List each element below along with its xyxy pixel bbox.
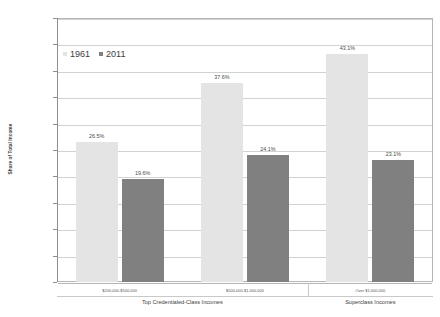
y-axis-tick-mark (53, 150, 57, 151)
legend-entry-2011: 2011 (99, 49, 125, 59)
y-axis-tick-mark (53, 282, 57, 283)
gridline (58, 125, 432, 126)
y-axis-tick-mark (53, 176, 57, 177)
bar-1961-2 (201, 83, 243, 282)
bar-value-label: 19.6% (112, 170, 174, 176)
x-axis-group-separator (308, 283, 309, 297)
x-axis-category-label: $200,000-$500,000 (50, 288, 190, 293)
bar-value-label: 43.1% (316, 45, 378, 51)
y-axis-tick-mark (53, 124, 57, 125)
bar-value-label: 23.1% (362, 151, 424, 157)
bar-2011-2 (247, 155, 289, 282)
bar-value-label: 37.6% (191, 74, 253, 80)
y-axis-title: Share of Total Income (8, 99, 14, 199)
bar-1961-3 (326, 54, 368, 282)
gridline (58, 72, 432, 73)
y-axis-tick-mark (53, 203, 57, 204)
bar-1961-1 (76, 142, 118, 282)
gridline (58, 283, 432, 284)
legend-swatch-1961 (63, 52, 67, 56)
x-axis-group-label: Top Credentialed-Class Incomes (92, 299, 272, 306)
y-axis-tick-mark (53, 71, 57, 72)
y-axis-tick-mark (53, 97, 57, 98)
y-axis-tick-mark (53, 44, 57, 45)
chart-legend: 1961 2011 (63, 49, 125, 59)
gridline (58, 19, 432, 20)
x-axis-category-label: $500,000-$1,000,000 (175, 288, 315, 293)
legend-entry-1961: 1961 (63, 49, 90, 59)
y-axis-tick-mark (53, 18, 57, 19)
gridline (58, 98, 432, 99)
y-axis-tick-mark (53, 256, 57, 257)
bar-2011-1 (122, 179, 164, 282)
legend-swatch-2011 (99, 52, 103, 56)
bar-2011-3 (372, 160, 414, 282)
bar-chart: Share of Total Income 50%45%40%35%30%25%… (0, 0, 440, 317)
x-axis-group-label: Superclass Incomes (280, 299, 440, 306)
x-axis-category-label: Over $1,000,000 (300, 288, 440, 293)
y-axis-line (57, 18, 58, 282)
x-axis-group-baseline (57, 296, 433, 297)
legend-label-2011: 2011 (106, 49, 125, 59)
bar-value-label: 24.1% (237, 146, 299, 152)
bar-value-label: 26.5% (66, 133, 128, 139)
legend-label-1961: 1961 (70, 49, 90, 59)
y-axis-tick-mark (53, 229, 57, 230)
